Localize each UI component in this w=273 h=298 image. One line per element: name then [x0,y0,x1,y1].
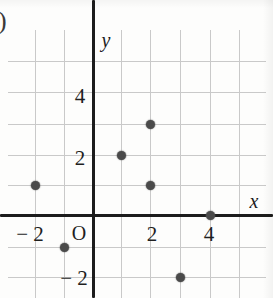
gridline-vertical [239,30,240,298]
data-point [146,181,155,190]
y-tick-label-4: 4 [75,86,86,107]
y-tick-label-2: 2 [75,148,86,169]
data-point [117,151,126,160]
gridline-horizontal [8,247,266,248]
y-tick-label-neg2: − 2 [60,268,88,289]
x-tick-label-2: 2 [147,224,158,245]
gridline-horizontal [8,61,266,62]
gridline-horizontal [8,92,266,93]
origin-label: O [72,223,86,243]
data-point [176,273,185,282]
data-point [31,181,40,190]
gridline-horizontal [8,124,266,125]
gridline-horizontal [8,185,266,186]
x-axis-label: x [250,191,259,211]
gridline-vertical [180,30,181,298]
x-tick-label-4: 4 [204,224,215,245]
data-point [60,243,69,252]
y-axis-label: y [102,30,111,50]
gridline-vertical [150,30,151,298]
data-point [146,120,155,129]
item-marker: ) [0,8,7,34]
x-axis-line [0,214,273,217]
y-axis-line [92,0,95,298]
gridline-horizontal [8,155,266,156]
x-tick-label-neg2: − 2 [16,224,44,245]
gridline-vertical [210,30,211,298]
grid-layer [0,0,273,298]
gridline-vertical [121,30,122,298]
data-point [206,211,215,220]
coordinate-grid-figure: x y − 2 O 2 4 4 2 − 2 ) [0,0,273,298]
gridline-vertical [35,30,36,298]
gridline-vertical [64,30,65,298]
gridline-horizontal [8,277,266,278]
